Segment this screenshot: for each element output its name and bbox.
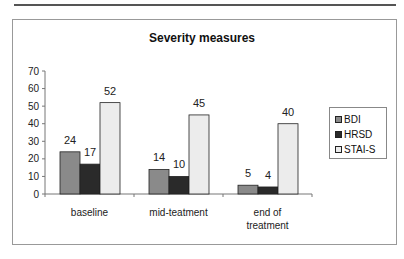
bar-hrsd xyxy=(169,176,189,194)
category-label: end of xyxy=(254,207,282,218)
legend-item-bdi: BDI xyxy=(335,114,361,125)
bar-bdi xyxy=(60,152,80,194)
category-label: treatment xyxy=(246,220,288,231)
y-tick-label: 30 xyxy=(28,136,40,147)
y-tick-label: 60 xyxy=(28,83,40,94)
legend-swatch-hrsd xyxy=(335,131,342,138)
y-tick-label: 50 xyxy=(28,101,40,112)
bar-bdi xyxy=(149,169,169,194)
legend-label: STAI-S xyxy=(344,144,375,155)
y-tick-label: 0 xyxy=(33,189,39,200)
data-label: 17 xyxy=(84,146,96,158)
bar-stai-s xyxy=(100,103,120,194)
legend-label: BDI xyxy=(344,114,361,125)
data-label: 45 xyxy=(193,97,205,109)
data-label: 4 xyxy=(265,169,271,181)
bar-hrsd xyxy=(258,187,278,194)
data-label: 10 xyxy=(173,158,185,170)
y-tick-label: 10 xyxy=(28,171,40,182)
data-label: 40 xyxy=(282,106,294,118)
bar-stai-s xyxy=(189,115,209,194)
category-label: mid-teatment xyxy=(149,207,208,218)
data-label: 5 xyxy=(245,167,251,179)
legend-swatch-stai-s xyxy=(335,146,342,153)
data-label: 52 xyxy=(104,85,116,97)
y-tick-label: 70 xyxy=(28,66,40,77)
bar-bdi xyxy=(238,185,258,194)
legend-label: HRSD xyxy=(344,129,372,140)
y-tick-label: 40 xyxy=(28,118,40,129)
data-label: 14 xyxy=(153,151,165,163)
category-label: baseline xyxy=(71,207,109,218)
y-tick-label: 20 xyxy=(28,153,40,164)
legend-swatch-bdi xyxy=(335,116,342,123)
legend: BDI HRSD STAI-S xyxy=(329,107,387,159)
bar-stai-s xyxy=(278,124,298,194)
data-label: 24 xyxy=(64,134,76,146)
legend-item-stai-s: STAI-S xyxy=(335,144,375,155)
legend-item-hrsd: HRSD xyxy=(335,129,372,140)
bar-hrsd xyxy=(80,164,100,194)
